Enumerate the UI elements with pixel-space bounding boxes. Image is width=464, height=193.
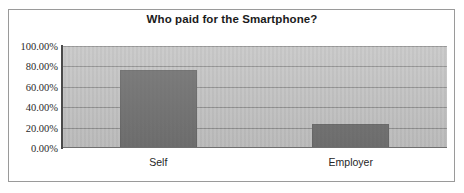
y-axis-tick-label: 60.00% [2, 81, 58, 92]
gridline [62, 46, 447, 47]
y-axis-tick-label: 40.00% [2, 102, 58, 113]
x-axis-tick-label: Employer [329, 156, 373, 168]
x-axis-tick-label: Self [149, 156, 167, 168]
plot-area [62, 46, 447, 148]
x-axis-line [62, 147, 447, 148]
y-axis-tick-labels: 100.00% 80.00% 60.00% 40.00% 20.00% 0.00… [0, 46, 58, 148]
y-axis-tick-label: 20.00% [2, 122, 58, 133]
bar-employer [312, 124, 389, 148]
chart-figure: Who paid for the Smartphone? 100.00% 80.… [0, 0, 464, 193]
y-axis-line [61, 45, 63, 149]
gridline [62, 66, 447, 67]
chart-title: Who paid for the Smartphone? [0, 13, 464, 25]
bar-self [120, 70, 197, 148]
x-axis-tick-labels: Self Employer [62, 156, 447, 172]
y-axis-tick-label: 0.00% [2, 143, 58, 154]
y-axis-tick-label: 80.00% [2, 61, 58, 72]
y-axis-tick-label: 100.00% [2, 41, 58, 52]
